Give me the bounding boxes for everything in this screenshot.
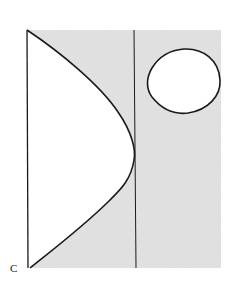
diagram-figure <box>0 0 233 292</box>
corner-label-c: C <box>10 262 17 274</box>
